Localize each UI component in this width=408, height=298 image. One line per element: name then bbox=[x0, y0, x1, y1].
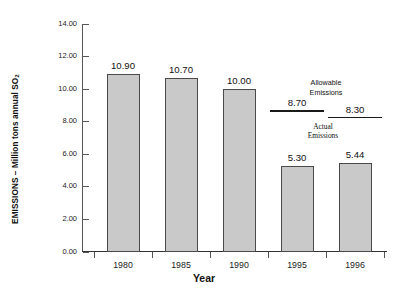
x-tick-mark bbox=[152, 252, 153, 258]
allowable-annotation-line2: Emissions bbox=[310, 88, 343, 98]
x-tick-label-1996: 1996 bbox=[345, 260, 365, 270]
allowable-annotation-line1: Allowable bbox=[310, 78, 343, 88]
y-tick-mark bbox=[83, 89, 89, 90]
bar-value-label-1990: 10.00 bbox=[227, 75, 251, 86]
y-tick-label: 8.00 bbox=[62, 116, 77, 125]
y-tick-mark bbox=[83, 56, 89, 57]
y-axis-title-text: EMISSIONS – Million tons annual SO bbox=[11, 78, 20, 224]
y-tick-label: 0.00 bbox=[62, 247, 77, 256]
allowable-line-1995 bbox=[270, 110, 324, 112]
bar-1996 bbox=[339, 163, 372, 252]
y-tick-label: 14.00 bbox=[58, 19, 77, 28]
x-tick-mark bbox=[326, 252, 327, 258]
x-tick-mark bbox=[384, 252, 385, 258]
y-tick-label: 6.00 bbox=[62, 149, 77, 158]
y-axis-title-subscript: 2 bbox=[13, 74, 20, 78]
allowable-value-label-1995: 8.70 bbox=[288, 97, 307, 108]
y-tick-label: 12.00 bbox=[58, 51, 77, 60]
y-tick-mark bbox=[83, 24, 89, 25]
emissions-bar-chart: EMISSIONS – Million tons annual SO2 14.0… bbox=[0, 0, 408, 298]
bar-value-label-1985: 10.70 bbox=[169, 64, 193, 75]
y-tick-mark bbox=[83, 219, 89, 220]
y-axis-line bbox=[82, 24, 83, 252]
bar-1990 bbox=[223, 89, 256, 252]
y-tick-14.00: 14.00 bbox=[82, 24, 89, 25]
y-tick-label: 2.00 bbox=[62, 214, 77, 223]
x-tick-label-1990: 1990 bbox=[229, 260, 249, 270]
y-tick-mark bbox=[83, 154, 89, 155]
y-tick-4.00: 4.00 bbox=[82, 186, 89, 187]
allowable-value-label-1996: 8.30 bbox=[346, 104, 365, 115]
y-tick-label: 10.00 bbox=[58, 84, 77, 93]
bar-1995 bbox=[281, 166, 314, 252]
bar-value-label-1996: 5.44 bbox=[346, 149, 365, 160]
x-axis-title: Year bbox=[0, 272, 408, 284]
actual-annotation-line2: Emissions bbox=[308, 131, 338, 141]
y-tick-12.00: 12.00 bbox=[82, 56, 89, 57]
y-tick-label: 4.00 bbox=[62, 181, 77, 190]
x-tick-mark bbox=[94, 252, 95, 258]
actual-emissions-annotation: Actual Emissions bbox=[308, 122, 338, 141]
y-tick-2.00: 2.00 bbox=[82, 219, 89, 220]
x-tick-mark bbox=[268, 252, 269, 258]
bar-1985 bbox=[165, 78, 198, 252]
x-tick-label-1995: 1995 bbox=[287, 260, 307, 270]
y-tick-0.00: 0.00 bbox=[82, 252, 89, 253]
bar-1980 bbox=[107, 74, 140, 252]
y-tick-mark bbox=[83, 121, 89, 122]
x-tick-label-1985: 1985 bbox=[171, 260, 191, 270]
y-tick-mark bbox=[83, 186, 89, 187]
y-tick-10.00: 10.00 bbox=[82, 89, 89, 90]
x-tick-mark bbox=[210, 252, 211, 258]
allowable-line-1996 bbox=[328, 117, 382, 119]
y-tick-8.00: 8.00 bbox=[82, 121, 89, 122]
plot-area: 14.0012.0010.008.006.004.002.000.00 10.9… bbox=[82, 24, 387, 252]
y-tick-6.00: 6.00 bbox=[82, 154, 89, 155]
bar-value-label-1995: 5.30 bbox=[288, 152, 307, 163]
y-axis-title: EMISSIONS – Million tons annual SO2 bbox=[0, 0, 30, 298]
y-tick-mark bbox=[83, 252, 89, 253]
bar-value-label-1980: 10.90 bbox=[111, 60, 135, 71]
actual-annotation-line1: Actual bbox=[308, 122, 338, 132]
x-tick-label-1980: 1980 bbox=[113, 260, 133, 270]
allowable-emissions-annotation: Allowable Emissions bbox=[310, 78, 343, 97]
